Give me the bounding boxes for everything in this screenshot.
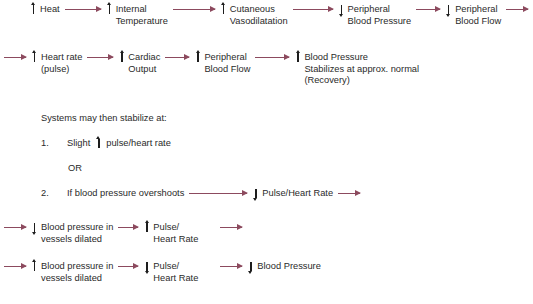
node-pulse-heart-rate-a: Pulse/ Heart Rate xyxy=(143,222,198,245)
up-arrow-icon xyxy=(31,52,39,64)
list-item-1-content: Slight pulse/heart rate xyxy=(67,138,171,150)
node-label: Cutaneous Vasodilatation xyxy=(230,4,288,27)
node-label: Pulse/ Heart Rate xyxy=(153,222,198,245)
list-item-1-label: pulse/heart rate xyxy=(106,138,171,150)
flow-row-recovery-cascade: Heart rate (pulse) Cardiac Output Periph… xyxy=(4,52,419,87)
list-item-1-number: 1. xyxy=(41,138,67,150)
connector-arrow-right-icon xyxy=(506,4,528,16)
connector-arrow-right-icon xyxy=(118,222,138,234)
list-item-1: 1. Slight pulse/heart rate xyxy=(41,138,171,150)
node-label: Pulse/ Heart Rate xyxy=(153,261,198,284)
or-separator-label: OR xyxy=(68,163,82,175)
node-pulse-heart-rate-b: Pulse/ Heart Rate xyxy=(143,261,198,284)
node-label: Peripheral Blood Flow xyxy=(455,4,501,27)
node-label: Heat xyxy=(40,4,60,16)
connector-arrow-right-icon xyxy=(173,4,215,16)
connector-arrow-right-icon xyxy=(255,52,289,64)
down-arrow-icon xyxy=(31,222,39,234)
connector-arrow-right-icon xyxy=(4,222,26,234)
list-item-2-label: Pulse/Heart Rate xyxy=(262,188,333,200)
up-arrow-icon xyxy=(106,4,114,16)
node-label: Cardiac Output xyxy=(128,52,160,75)
up-arrow-icon xyxy=(30,4,38,16)
node-heart-rate: Heart rate (pulse) xyxy=(31,52,82,75)
connector-arrow-right-icon xyxy=(118,261,138,273)
node-cutaneous-vasodilatation: Cutaneous Vasodilatation xyxy=(220,4,288,27)
node-peripheral-blood-flow-2: Peripheral Blood Flow xyxy=(194,52,250,75)
node-cardiac-output: Cardiac Output xyxy=(118,52,160,75)
flow-row-heat-cascade: Heat Internal Temperature Cutaneous Vaso… xyxy=(30,4,533,27)
down-arrow-icon xyxy=(252,188,260,200)
down-arrow-icon xyxy=(445,4,453,16)
node-label: Peripheral Blood Flow xyxy=(204,52,250,75)
up-arrow-icon xyxy=(31,261,39,273)
node-label: Internal Temperature xyxy=(116,4,168,27)
up-arrow-icon xyxy=(143,222,151,234)
node-label: Blood Pressure xyxy=(257,261,321,273)
up-arrow-icon xyxy=(194,52,202,64)
connector-arrow-right-icon xyxy=(4,261,26,273)
flow-row-dilated-b: Blood pressure in vessels dilated Pulse/… xyxy=(4,261,321,284)
node-peripheral-blood-flow: Peripheral Blood Flow xyxy=(445,4,501,27)
up-arrow-icon xyxy=(294,52,302,64)
node-label: Heart rate (pulse) xyxy=(41,52,82,75)
stabilize-heading: Systems may then stabilize at: xyxy=(41,113,167,125)
down-arrow-icon xyxy=(247,261,255,273)
node-label: Blood Pressure Stabilizes at approx. nor… xyxy=(304,52,419,87)
down-arrow-icon xyxy=(338,4,346,16)
down-arrow-icon xyxy=(143,261,151,273)
list-item-2: 2. If blood pressure overshoots Pulse/He… xyxy=(41,188,365,200)
connector-arrow-right-icon xyxy=(338,188,360,200)
node-label: Blood pressure in vessels dilated xyxy=(41,261,113,284)
connector-arrow-right-icon xyxy=(220,261,242,273)
node-peripheral-blood-pressure: Peripheral Blood Pressure xyxy=(338,4,412,27)
connector-arrow-right-icon xyxy=(220,222,242,234)
node-heat: Heat xyxy=(30,4,60,16)
node-label: Peripheral Blood Pressure xyxy=(348,4,412,27)
connector-arrow-right-icon xyxy=(189,188,247,200)
connector-arrow-right-icon xyxy=(165,52,189,64)
connector-arrow-right-icon xyxy=(293,4,333,16)
node-internal-temperature: Internal Temperature xyxy=(106,4,168,27)
list-item-2-number: 2. xyxy=(41,188,67,200)
up-arrow-icon xyxy=(220,4,228,16)
list-item-1-prefix: Slight xyxy=(67,138,90,150)
connector-arrow-right-icon xyxy=(416,4,440,16)
list-item-2-condition: If blood pressure overshoots xyxy=(67,188,184,200)
connector-arrow-right-icon xyxy=(4,52,26,64)
list-item-2-content: If blood pressure overshoots Pulse/Heart… xyxy=(67,188,365,200)
node-blood-pressure-final: Blood Pressure xyxy=(247,261,321,273)
node-blood-pressure-recovery: Blood Pressure Stabilizes at approx. nor… xyxy=(294,52,419,87)
connector-arrow-right-icon xyxy=(65,4,101,16)
connector-arrow-right-icon xyxy=(87,52,113,64)
node-label: Blood pressure in vessels dilated xyxy=(41,222,113,245)
flow-row-dilated-a: Blood pressure in vessels dilated Pulse/… xyxy=(4,222,247,245)
node-blood-pressure-vessels-dilated-a: Blood pressure in vessels dilated xyxy=(31,222,113,245)
up-arrow-icon xyxy=(95,138,103,150)
node-blood-pressure-vessels-dilated-b: Blood pressure in vessels dilated xyxy=(31,261,113,284)
up-arrow-icon xyxy=(118,52,126,64)
